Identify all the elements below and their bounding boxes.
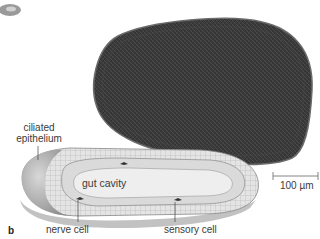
inset-disk-icon: [0, 4, 21, 16]
label-gut-cavity: gut cavity: [82, 178, 126, 189]
label-epithelium-line2: epithelium: [14, 133, 64, 144]
label-sensory-cell: sensory cell: [164, 224, 217, 235]
label-nerve-cell: nerve cell: [46, 224, 89, 235]
panel-letter: b: [8, 225, 14, 236]
figure-canvas: [0, 0, 320, 239]
label-ciliated-line1: ciliated: [14, 122, 64, 133]
micrograph-specimen: [94, 18, 312, 164]
scale-bar: [273, 172, 318, 180]
scale-bar-label: 100 µm: [280, 180, 314, 191]
label-ciliated-epithelium: ciliated epithelium: [14, 122, 64, 144]
cutaway-diagram: [20, 148, 258, 228]
